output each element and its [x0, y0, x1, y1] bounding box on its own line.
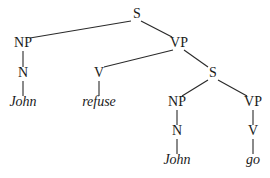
node-np-subject: NP: [14, 35, 32, 50]
leaf-john-embedded: John: [163, 152, 190, 167]
tree-nodes: S NP VP N V S John refuse NP VP N V John…: [9, 6, 262, 167]
edge-vp1-s2: [184, 50, 208, 67]
syntax-tree-diagram: S NP VP N V S John refuse NP VP N V John…: [0, 0, 270, 178]
leaf-refuse: refuse: [82, 94, 116, 109]
tree-edges: [23, 21, 253, 154]
leaf-go: go: [246, 152, 260, 167]
edge-s2-vp2: [218, 80, 247, 96]
node-v-main: V: [94, 65, 104, 80]
node-n-embedded: N: [172, 123, 182, 138]
node-vp-embedded: VP: [244, 94, 262, 109]
node-n-subject: N: [18, 65, 28, 80]
edge-vp1-v1: [104, 50, 173, 67]
edge-s1-np1: [30, 21, 131, 38]
node-s-root: S: [133, 6, 141, 21]
node-np-embedded: NP: [168, 94, 186, 109]
node-vp-main: VP: [170, 35, 188, 50]
node-v-embedded: V: [248, 123, 258, 138]
node-s-embedded: S: [209, 65, 217, 80]
leaf-john-subject: John: [9, 94, 36, 109]
edge-s1-vp1: [141, 21, 172, 37]
